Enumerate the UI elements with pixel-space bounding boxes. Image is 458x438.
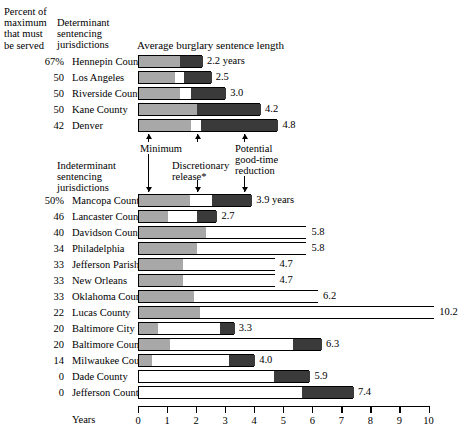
bar-container: [138, 306, 434, 319]
table-row: 50%Mancopa County3.9 years: [0, 193, 457, 208]
bar-value-label: 4.0: [259, 354, 272, 365]
bar-container: [138, 370, 309, 383]
bar-value-label: 6.3: [326, 338, 339, 349]
percent-value: 22: [0, 307, 64, 318]
percent-value: 40: [0, 227, 64, 238]
bar-segment-goodtime: [180, 56, 203, 67]
axis-tick: [138, 406, 139, 413]
good-time-annotation-label: Potential good-time reduction: [235, 143, 278, 177]
jurisdiction-label: Denver: [72, 120, 103, 131]
table-row: 50Kane County4.2: [0, 102, 457, 117]
percent-value: 0: [0, 371, 64, 382]
axis-tick: [196, 406, 197, 413]
bar-segment-discretionary: [180, 88, 192, 99]
minimum-annotation-label: Minimum: [140, 143, 182, 154]
bar-segment-minimum: [139, 307, 200, 318]
table-row: 0Jefferson County7.4: [0, 385, 457, 400]
bar-segment-minimum: [139, 56, 180, 67]
bar-segment-minimum: [139, 72, 175, 83]
bar-container: [138, 55, 202, 68]
table-row: 67%Hennepin County2.2 years: [0, 54, 457, 69]
bar-value-label: 4.8: [282, 119, 295, 130]
determinate-group-header: Determinant sentencing jurisdictions: [57, 17, 109, 51]
bar-segment-minimum: [139, 243, 197, 254]
bar-segment-discretionary: [170, 339, 293, 350]
stacked-bar: [138, 290, 318, 303]
percent-value: 14: [0, 355, 64, 366]
indeterminate-group-header: Indeterminant sentencing jurisdictions: [57, 160, 116, 194]
table-row: 14Milwaukee County4.0: [0, 353, 457, 368]
bar-segment-discretionary: [139, 387, 302, 398]
axis-tick: [341, 406, 342, 413]
percent-value: 34: [0, 243, 64, 254]
jurisdiction-label: Riverside County: [72, 88, 146, 99]
bar-segment-goodtime: [212, 195, 253, 206]
bar-container: [138, 71, 211, 84]
percent-value: 67%: [0, 56, 64, 67]
table-row: 0Dade County5.9: [0, 369, 457, 384]
axis-tick: [399, 406, 400, 413]
percent-value: 46: [0, 211, 64, 222]
table-row: 50Riverside County3.0: [0, 86, 457, 101]
axis-tick: [429, 406, 430, 413]
percent-value: 20: [0, 339, 64, 350]
bar-value-label: 2.7: [221, 210, 234, 221]
axis-tick-label: 1: [157, 415, 177, 426]
bar-segment-minimum: [139, 104, 197, 115]
stacked-bar: [138, 274, 275, 287]
stacked-bar: [138, 194, 251, 207]
stacked-bar: [138, 119, 277, 132]
bar-container: [138, 194, 251, 207]
table-row: 33New Orleans4.7: [0, 273, 457, 288]
axis-tick-label: 10: [419, 415, 439, 426]
bar-value-label: 7.4: [358, 386, 371, 397]
discretionary-release-annotation-label: Discretionary release*: [172, 160, 229, 182]
table-row: 33Oklahoma County6.2: [0, 289, 457, 304]
jurisdiction-label: Philadelphia: [72, 243, 125, 254]
percent-value: 0: [0, 387, 64, 398]
axis-tick: [370, 406, 371, 413]
bar-value-label: 5.9: [314, 370, 327, 381]
bar-value-label: 3.0: [230, 87, 243, 98]
bar-container: [138, 274, 275, 287]
table-row: 42Denver4.8: [0, 118, 457, 133]
axis-tick: [283, 406, 284, 413]
bar-container: [138, 226, 306, 239]
bar-segment-goodtime: [220, 323, 235, 334]
bar-segment-minimum: [139, 120, 191, 131]
percent-value: 50: [0, 72, 64, 83]
stacked-bar: [138, 55, 202, 68]
stacked-bar: [138, 87, 225, 100]
bar-segment-discretionary: [190, 195, 212, 206]
axis-tick-label: 3: [215, 415, 235, 426]
table-row: 22Lucas County10.2: [0, 305, 457, 320]
percent-value: 42: [0, 120, 64, 131]
stacked-bar: [138, 242, 306, 255]
minimum-arrow-up-arrowhead: [146, 134, 152, 139]
axis-tick-label: 5: [273, 415, 293, 426]
bar-segment-minimum: [139, 275, 183, 286]
bar-value-label: 3.9 years: [256, 194, 294, 205]
bar-segment-minimum: [139, 355, 152, 366]
bar-segment-discretionary: [183, 275, 276, 286]
bar-segment-goodtime: [201, 120, 278, 131]
bar-segment-discretionary: [152, 355, 229, 366]
chart-title: Average burglary sentence length: [137, 40, 284, 51]
jurisdiction-label: Jefferson County: [72, 387, 144, 398]
table-row: 50Los Angeles2.5: [0, 70, 457, 85]
axis-tick: [312, 406, 313, 413]
jurisdiction-label: Mancopa County: [72, 195, 145, 206]
bar-segment-minimum: [139, 88, 180, 99]
bar-segment-minimum: [139, 323, 158, 334]
bar-container: [138, 386, 353, 399]
bar-value-label: 2.5: [216, 71, 229, 82]
discretionary-arrow-up-arrowhead: [195, 134, 201, 139]
axis-tick-label: 7: [331, 415, 351, 426]
jurisdiction-label: Lucas County: [72, 307, 131, 318]
stacked-bar: [138, 306, 434, 319]
bar-segment-goodtime: [293, 339, 322, 350]
bar-segment-goodtime: [197, 104, 261, 115]
bar-segment-minimum: [139, 211, 168, 222]
bar-segment-goodtime: [274, 371, 310, 382]
bar-segment-goodtime: [302, 387, 354, 398]
